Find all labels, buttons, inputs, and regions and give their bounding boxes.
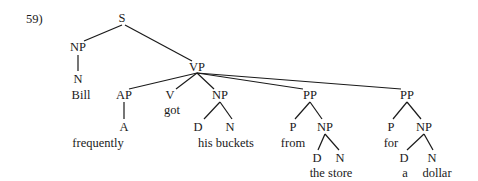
tree-branch (84, 25, 122, 41)
tree-branch (125, 25, 192, 61)
tree-branch (407, 134, 424, 150)
terminal-word: the store (310, 166, 353, 180)
terminal-word: Bill (72, 88, 91, 102)
tree-branch (325, 134, 339, 150)
category-node: A (119, 120, 128, 134)
category-node: P (388, 120, 395, 134)
tree-branch (220, 102, 232, 119)
terminal-word: a (402, 166, 408, 180)
category-node: NP (70, 40, 86, 54)
example-number: 59) (26, 12, 43, 26)
terminal-word: dollar (422, 166, 451, 180)
category-node: S (119, 11, 126, 25)
category-node: N (427, 151, 436, 165)
category-node: PP (303, 88, 317, 102)
terminal-word: from (281, 136, 305, 150)
category-node: P (290, 120, 297, 134)
tree-branch (407, 102, 421, 119)
tree-branch (310, 102, 322, 119)
category-node: N (73, 72, 82, 86)
category-node: NP (317, 120, 333, 134)
category-node: D (193, 120, 202, 134)
terminal-word: for (384, 136, 399, 150)
tree-branch (295, 102, 310, 119)
category-node: V (165, 88, 174, 102)
tree-branch (197, 73, 401, 89)
tree-branch (393, 102, 407, 119)
tree-branch (424, 134, 433, 150)
category-node: D (399, 151, 408, 165)
category-node: AP (116, 88, 132, 102)
category-node: N (225, 120, 234, 134)
tree-branch (197, 73, 303, 89)
category-node: D (312, 151, 321, 165)
category-node: N (335, 151, 344, 165)
syntax-tree-diagram: 59) SNPNBillVPAPAfrequentlyVgotNPDNhis b… (0, 0, 478, 181)
terminal-word: got (164, 103, 180, 117)
terminal-word: his buckets (198, 136, 254, 150)
tree-branch (318, 134, 325, 150)
category-node: NP (212, 88, 228, 102)
category-node: PP (400, 88, 414, 102)
category-node: NP (416, 120, 432, 134)
category-node: VP (189, 60, 205, 74)
tree-branch (204, 102, 220, 119)
terminal-word: frequently (72, 136, 123, 150)
